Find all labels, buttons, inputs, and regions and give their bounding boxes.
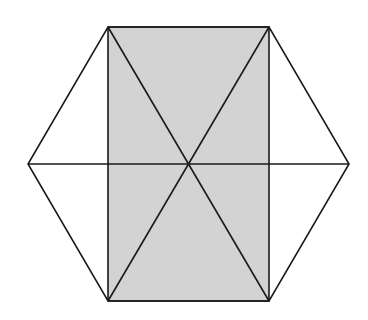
hexagon-diagram (0, 0, 368, 320)
